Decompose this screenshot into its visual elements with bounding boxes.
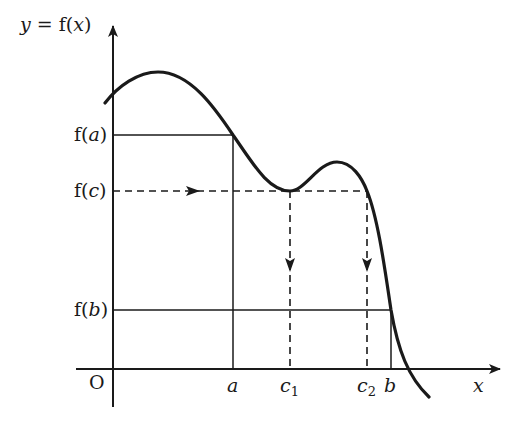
origin-label: O (89, 373, 105, 392)
c1-arrow-icon (285, 258, 295, 272)
c2-arrow-icon (362, 258, 372, 272)
function-curve (105, 72, 429, 397)
fa-label: f(a) (74, 125, 107, 144)
c2-label: c2 (357, 376, 376, 398)
a-label: a (227, 376, 238, 395)
y-axis-label: y = f(x) (20, 15, 91, 34)
c1-label: c1 (280, 376, 299, 398)
diagram-canvas (0, 0, 523, 421)
fb-label: f(b) (74, 300, 108, 319)
x-axis-label: x (473, 376, 484, 395)
b-label: b (384, 376, 396, 395)
fc-label: f(c) (74, 181, 107, 200)
